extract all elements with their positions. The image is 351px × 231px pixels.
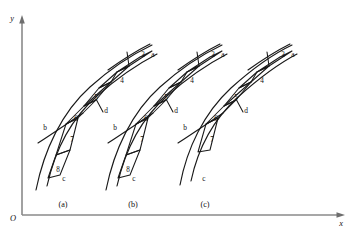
axes-group: y x O xyxy=(9,14,345,228)
cell-label-5: 5 xyxy=(94,94,98,102)
group-c-curves xyxy=(178,44,297,185)
point-label-c: c xyxy=(132,174,136,183)
cell-label-7: 7 xyxy=(140,136,144,144)
cell-label-6: 6 xyxy=(144,115,148,123)
y-axis-arrowhead xyxy=(19,15,25,24)
cell-label-3: 3 xyxy=(141,51,145,59)
point-label-c: c xyxy=(62,174,66,183)
group-b-cells xyxy=(118,51,222,178)
point-label-a: a xyxy=(291,50,295,59)
cell-label-8: 8 xyxy=(56,166,60,174)
cell-label-4: 4 xyxy=(260,77,264,85)
cell-label-4: 4 xyxy=(120,77,124,85)
figure-container: y x O xyxy=(0,0,351,231)
point-label-a: a xyxy=(151,50,155,59)
point-label-a: a xyxy=(221,50,225,59)
group-b-curves xyxy=(106,44,227,190)
group-caption-c: (c) xyxy=(200,200,209,209)
cell-label-4: 4 xyxy=(190,77,194,85)
cell-label-5: 5 xyxy=(164,94,168,102)
cell-label-7: 7 xyxy=(70,136,74,144)
group-caption-a: (a) xyxy=(58,200,67,209)
point-label-d: d xyxy=(174,106,178,115)
cell-label-6: 6 xyxy=(214,115,218,123)
x-axis-label: x xyxy=(338,219,343,228)
group-a-curves xyxy=(36,44,157,190)
point-label-c: c xyxy=(202,174,206,183)
cell-label-3: 3 xyxy=(281,51,285,59)
y-axis-label: y xyxy=(9,14,14,23)
point-label-b: b xyxy=(43,123,47,132)
point-label-b: b xyxy=(113,123,117,132)
x-axis-arrowhead xyxy=(337,212,346,218)
point-label-d: d xyxy=(104,106,108,115)
cell-label-7: 7 xyxy=(210,136,214,144)
cell-label-6: 6 xyxy=(74,115,78,123)
group-a: 3 4 5 6 7 8 a b c d (a) xyxy=(36,44,157,209)
point-label-d: d xyxy=(244,106,248,115)
group-caption-b: (b) xyxy=(128,200,138,209)
point-label-b: b xyxy=(183,123,187,132)
origin-label: O xyxy=(10,214,16,223)
cell-label-5: 5 xyxy=(234,94,238,102)
group-a-labels: 3 4 5 6 7 8 a b c d xyxy=(43,50,155,183)
cell-label-8: 8 xyxy=(126,166,130,174)
cell-label-3: 3 xyxy=(211,51,215,59)
cascade-diagram: y x O xyxy=(0,0,351,231)
